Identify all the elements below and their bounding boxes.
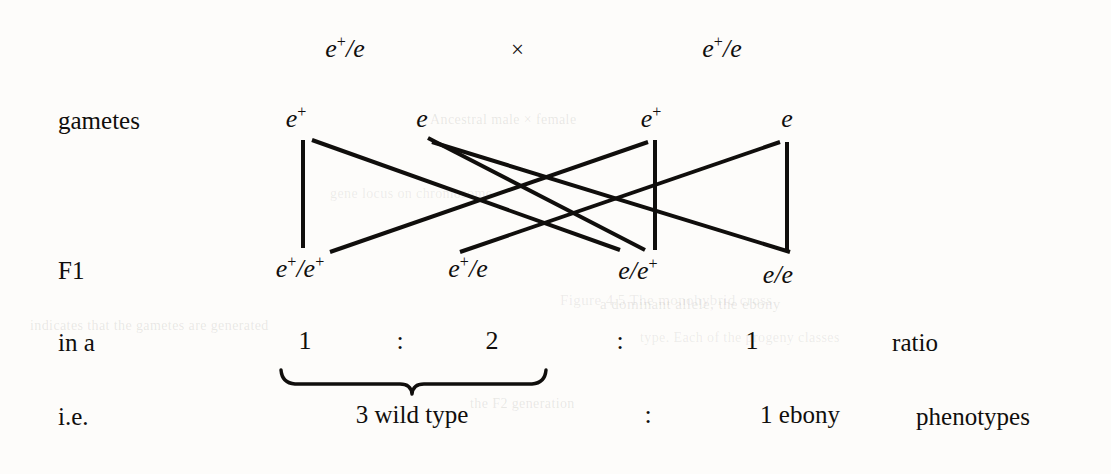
phenotype-wild-type: 3 wild type [356, 402, 469, 427]
phenotype-trailing-word: phenotypes [916, 404, 1030, 429]
figure-canvas: Ancestral male × femalegene locus on chr… [0, 0, 1111, 474]
phenotype-separator: : [644, 402, 651, 428]
phenotype-ebony: 1 ebony [760, 402, 840, 427]
